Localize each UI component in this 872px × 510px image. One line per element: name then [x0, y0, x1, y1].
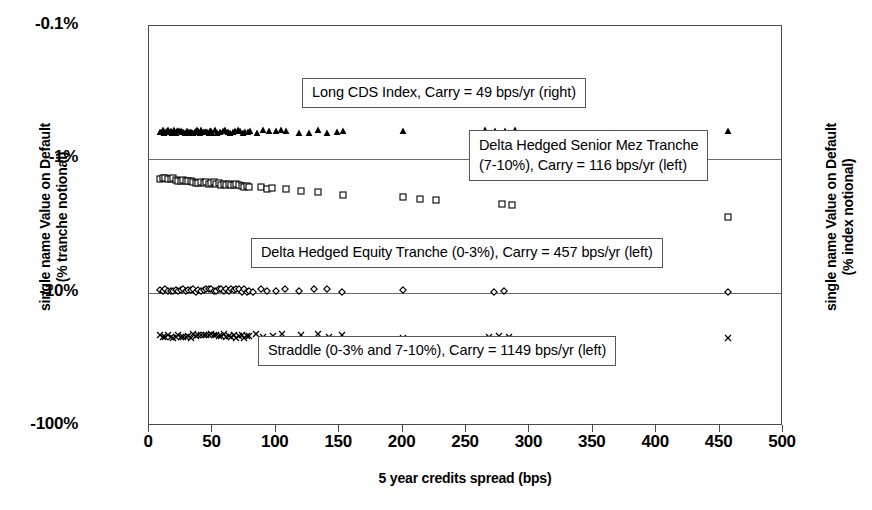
data-point-filled-triangle: [197, 126, 205, 134]
data-point-filled-triangle: [173, 127, 181, 135]
data-point-open-square: [314, 188, 322, 196]
data-point-cross-x: [230, 331, 238, 339]
data-point-open-square: [207, 179, 215, 187]
data-point-filled-triangle: [198, 128, 206, 136]
data-point-open-square: [432, 196, 440, 204]
data-point-open-square: [194, 179, 202, 187]
x-tick-mark-1: [211, 425, 212, 432]
data-point-filled-triangle: [206, 127, 214, 135]
data-point-open-diamond: [245, 287, 253, 295]
data-point-filled-triangle: [399, 127, 407, 135]
data-point-filled-triangle: [219, 127, 227, 135]
data-point-filled-triangle: [239, 129, 247, 137]
data-point-open-square: [156, 175, 164, 183]
data-point-filled-triangle: [323, 129, 331, 137]
data-point-filled-triangle: [165, 128, 173, 136]
callout-straddle[interactable]: Straddle (0-3% and 7-10%), Carry = 1149 …: [258, 336, 616, 366]
data-point-open-square: [187, 177, 195, 185]
data-point-filled-triangle: [207, 127, 215, 135]
x-tick-mark-9: [719, 425, 720, 432]
y-axis-right-title-line2: (% index notional): [840, 67, 857, 367]
data-point-filled-triangle: [182, 129, 190, 137]
x-tick-label-9: 450: [684, 432, 754, 452]
data-point-filled-triangle: [159, 126, 167, 134]
data-point-open-square: [257, 183, 265, 191]
data-point-cross-x: [222, 333, 230, 341]
data-point-filled-triangle: [192, 127, 200, 135]
data-point-open-diamond: [192, 288, 200, 296]
data-point-open-square: [724, 213, 732, 221]
data-point-filled-triangle: [234, 126, 242, 134]
data-point-filled-triangle: [193, 126, 201, 134]
data-point-cross-x: [232, 334, 240, 342]
data-point-open-diamond: [263, 287, 271, 295]
data-point-open-square: [508, 201, 516, 209]
data-point-open-diamond: [243, 288, 251, 296]
data-point-open-square: [220, 180, 228, 188]
data-point-cross-x: [174, 331, 182, 339]
data-point-filled-triangle: [191, 128, 199, 136]
callout-senior-mez-tranche[interactable]: Delta Hedged Senior Mez Tranche (7-10%),…: [469, 130, 708, 181]
data-point-cross-x: [184, 332, 192, 340]
y-axis-right-title: single name Value on Default (% index no…: [823, 67, 857, 367]
data-point-filled-triangle: [202, 128, 210, 136]
data-point-cross-x: [217, 332, 225, 340]
x-tick-mark-5: [465, 425, 466, 432]
data-point-cross-x: [200, 331, 208, 339]
data-point-open-diamond: [338, 288, 346, 296]
data-point-filled-triangle: [175, 127, 183, 135]
data-point-cross-x: [212, 331, 220, 339]
data-point-filled-triangle: [188, 129, 196, 137]
data-point-cross-x: [245, 332, 253, 340]
data-point-cross-x: [159, 333, 167, 341]
x-tick-label-7: 350: [557, 432, 627, 452]
data-point-filled-triangle: [158, 128, 166, 136]
data-point-open-diamond: [500, 287, 508, 295]
data-point-filled-triangle: [229, 128, 237, 136]
data-point-open-square: [297, 187, 305, 195]
data-point-cross-x: [238, 331, 246, 339]
data-point-cross-x: [197, 331, 205, 339]
data-point-open-diamond: [167, 287, 175, 295]
chart-figure: single name Value on Default (% tranche …: [0, 0, 872, 510]
data-point-open-square: [498, 200, 506, 208]
data-point-filled-triangle: [178, 128, 186, 136]
data-point-cross-x: [169, 334, 177, 342]
data-point-filled-triangle: [314, 126, 322, 134]
data-point-filled-triangle: [160, 129, 168, 137]
x-tick-label-5: 250: [430, 432, 500, 452]
data-point-open-square: [235, 181, 243, 189]
x-tick-label-0: 0: [113, 432, 183, 452]
data-point-filled-triangle: [246, 127, 254, 135]
data-point-open-square: [339, 191, 347, 199]
data-point-filled-triangle: [167, 127, 175, 135]
data-point-filled-triangle: [169, 129, 177, 137]
data-point-cross-x: [724, 334, 732, 342]
data-point-filled-triangle: [172, 129, 180, 137]
data-point-open-square: [189, 178, 197, 186]
data-point-filled-triangle: [241, 128, 249, 136]
data-point-cross-x: [215, 332, 223, 340]
x-tick-label-6: 300: [493, 432, 563, 452]
data-point-filled-triangle: [295, 129, 303, 137]
data-point-filled-triangle: [200, 128, 208, 136]
data-point-filled-triangle: [179, 128, 187, 136]
data-point-filled-triangle: [187, 128, 195, 136]
data-point-cross-x: [167, 333, 175, 341]
data-point-cross-x: [161, 333, 169, 341]
x-axis-title: 5 year credits spread (bps): [148, 470, 782, 487]
x-tick-mark-4: [402, 425, 403, 432]
callout-long-cds-index[interactable]: Long CDS Index, Carry = 49 bps/yr (right…: [302, 78, 586, 108]
data-point-filled-triangle: [156, 128, 164, 136]
data-point-cross-x: [210, 331, 218, 339]
data-point-open-diamond: [159, 287, 167, 295]
callout-equity-tranche[interactable]: Delta Hedged Equity Tranche (0-3%), Carr…: [251, 238, 663, 268]
data-point-filled-triangle: [170, 126, 178, 134]
data-point-cross-x: [220, 330, 228, 338]
x-tick-mark-3: [338, 425, 339, 432]
y-axis-left-title-line2: (% tranche notional): [54, 67, 71, 367]
data-point-cross-x: [192, 332, 200, 340]
data-point-cross-x: [177, 333, 185, 341]
data-point-open-square: [202, 178, 210, 186]
x-tick-label-1: 50: [176, 432, 246, 452]
